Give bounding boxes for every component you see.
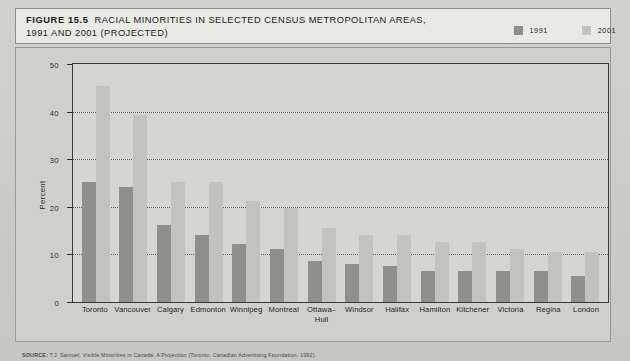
bar-group xyxy=(115,64,153,302)
source-text: T.J. Samuel, Visible Minorities in Canad… xyxy=(49,352,316,358)
bar-1991 xyxy=(308,261,322,302)
square-swatch-icon xyxy=(514,26,523,35)
bar-2001 xyxy=(209,182,223,302)
y-axis-title: Percent xyxy=(38,180,47,209)
bar-series-layer xyxy=(73,64,608,302)
x-axis-label: Vancouver xyxy=(114,305,152,324)
bar-1991 xyxy=(82,182,96,302)
bar-group xyxy=(453,64,491,302)
bar-1991 xyxy=(534,271,548,302)
x-axis-label: Toronto xyxy=(76,305,114,324)
x-axis-labels: TorontoVancouverCalgaryEdmontonWinnipegM… xyxy=(72,305,609,324)
bar-1991 xyxy=(157,225,171,302)
bar-group xyxy=(566,64,604,302)
legend-item-2001: 2001 xyxy=(582,26,616,35)
x-axis-label: Calgary xyxy=(152,305,190,324)
bar-group xyxy=(303,64,341,302)
source-note: SOURCE: T.J. Samuel, Visible Minorities … xyxy=(22,352,582,361)
bar-group xyxy=(491,64,529,302)
figure-title-line2: 1991 AND 2001 (PROJECTED) xyxy=(26,28,168,38)
y-tick-label-30: 30 xyxy=(50,156,59,165)
x-axis-label: Regina xyxy=(529,305,567,324)
bar-1991 xyxy=(270,249,284,302)
plot-area: 01020304050 xyxy=(72,63,609,303)
bar-2001 xyxy=(472,242,486,302)
bar-2001 xyxy=(548,252,562,302)
x-axis-label: Windsor xyxy=(340,305,378,324)
legend-label-1991: 1991 xyxy=(530,26,548,35)
x-axis-label: Hamilton xyxy=(416,305,454,324)
bar-1991 xyxy=(345,264,359,302)
bar-group xyxy=(152,64,190,302)
bar-group xyxy=(190,64,228,302)
y-tick-label-10: 10 xyxy=(50,251,59,260)
bar-1991 xyxy=(496,271,510,302)
bar-2001 xyxy=(171,182,185,302)
figure-title: FIGURE 15.5 RACIAL MINORITIES IN SELECTE… xyxy=(26,14,456,39)
bar-1991 xyxy=(383,266,397,302)
bar-group xyxy=(228,64,266,302)
bar-2001 xyxy=(397,235,411,302)
bar-1991 xyxy=(232,244,246,302)
bar-group xyxy=(77,64,115,302)
y-tick-0: 0 xyxy=(67,302,73,303)
bar-1991 xyxy=(195,235,209,302)
figure-number: FIGURE 15.5 xyxy=(26,15,88,25)
bar-group xyxy=(529,64,567,302)
bar-2001 xyxy=(284,208,298,302)
y-tick-label-20: 20 xyxy=(50,203,59,212)
y-tick-label-0: 0 xyxy=(54,299,59,308)
chart-legend: 1991 2001 xyxy=(514,26,616,35)
x-axis-label: Kitchener xyxy=(454,305,492,324)
bar-group xyxy=(416,64,454,302)
bar-group xyxy=(378,64,416,302)
y-tick-label-50: 50 xyxy=(50,61,59,70)
bar-2001 xyxy=(322,228,336,302)
figure-title-line1: RACIAL MINORITIES IN SELECTED CENSUS MET… xyxy=(94,15,426,25)
x-axis-label: Halifax xyxy=(378,305,416,324)
legend-item-1991: 1991 xyxy=(514,26,548,35)
bar-2001 xyxy=(359,235,373,302)
x-axis-label: Victoria xyxy=(492,305,530,324)
chart-panel: Percent 01020304050 TorontoVancouverCalg… xyxy=(15,47,611,342)
x-axis-label: Montreal xyxy=(265,305,303,324)
bar-1991 xyxy=(571,276,585,302)
y-tick-label-40: 40 xyxy=(50,108,59,117)
bar-2001 xyxy=(510,249,524,302)
x-axis-label: London xyxy=(567,305,605,324)
legend-label-2001: 2001 xyxy=(598,26,616,35)
bar-2001 xyxy=(585,252,599,302)
bar-2001 xyxy=(96,86,110,302)
bar-1991 xyxy=(458,271,472,302)
bar-group xyxy=(340,64,378,302)
square-swatch-icon xyxy=(582,26,591,35)
x-axis-label: Winnipeg xyxy=(227,305,265,324)
x-axis-label: Ottawa– Hull xyxy=(303,305,341,324)
x-axis-label: Edmonton xyxy=(189,305,227,324)
bar-2001 xyxy=(133,115,147,302)
bar-2001 xyxy=(246,201,260,302)
source-prefix: SOURCE: xyxy=(22,352,48,358)
bar-2001 xyxy=(435,242,449,302)
bar-group xyxy=(265,64,303,302)
bar-1991 xyxy=(421,271,435,302)
bar-1991 xyxy=(119,187,133,302)
